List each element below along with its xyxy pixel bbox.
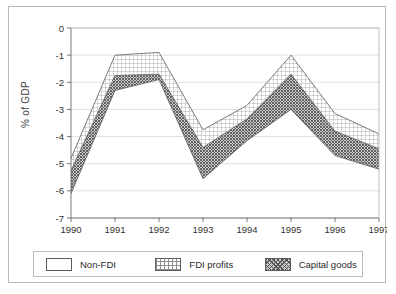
svg-text:1990: 1990 [60,224,81,235]
legend-label-capital-goods: Capital goods [299,259,357,270]
legend-item-fdi-profits: FDI profits [143,258,252,271]
grid-hatch-swatch [155,258,181,271]
svg-text:1997: 1997 [368,224,387,235]
stacked-areas [71,52,379,193]
x-axis-ticks: 19901991199219931994199519961997 [60,218,387,235]
y-axis-ticks: 0-1-2-3-4-5-6-7 [56,23,71,224]
svg-text:1992: 1992 [148,224,169,235]
plot-area: % of GDP [9,7,387,247]
svg-text:1991: 1991 [104,224,125,235]
svg-text:1995: 1995 [280,224,301,235]
legend-label-fdi-profits: FDI profits [189,259,233,270]
svg-text:-6: -6 [56,185,64,196]
svg-text:-1: -1 [56,50,64,61]
svg-text:0: 0 [59,23,64,34]
legend-label-non-fdi: Non-FDI [80,259,116,270]
svg-text:1994: 1994 [236,224,257,235]
legend-item-capital-goods: Capital goods [253,258,362,271]
legend-item-non-fdi: Non-FDI [34,258,143,271]
svg-text:-7: -7 [56,213,64,224]
white-swatch [46,258,72,271]
dark-crosshatch-swatch [265,258,291,271]
chart-legend: Non-FDI FDI profits Capital goods [33,251,363,277]
area-chart-svg: 0-1-2-3-4-5-6-7 199019911992199319941995… [9,7,387,247]
svg-text:-3: -3 [56,104,64,115]
svg-text:-4: -4 [56,131,64,142]
svg-text:-2: -2 [56,77,64,88]
svg-text:-5: -5 [56,158,64,169]
svg-text:1996: 1996 [324,224,345,235]
svg-text:1993: 1993 [192,224,213,235]
chart-figure: % of GDP [8,6,386,283]
